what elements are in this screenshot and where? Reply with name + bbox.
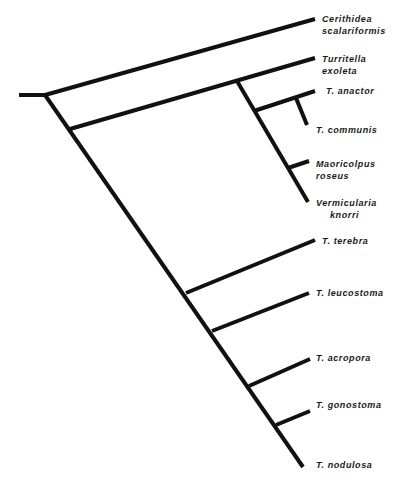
branch-anactor-communis bbox=[254, 91, 315, 111]
branch-communis bbox=[296, 98, 307, 125]
taxon-label-communis: T. communis bbox=[316, 124, 377, 136]
taxon-label-leucostoma: T. leucostoma bbox=[316, 287, 384, 299]
taxon-species: exoleta bbox=[322, 65, 366, 77]
main-trunk bbox=[45, 95, 303, 467]
taxon-genus: Cerithidea bbox=[322, 13, 386, 25]
taxon-species: roseus bbox=[316, 170, 376, 182]
taxon-name: T. leucostoma bbox=[316, 287, 384, 299]
branch-maoricolpus bbox=[288, 161, 309, 168]
taxon-name: T. nodulosa bbox=[316, 459, 372, 471]
taxon-genus: Maoricolpus bbox=[316, 158, 376, 170]
taxon-label-nodulosa: T. nodulosa bbox=[316, 459, 372, 471]
branch-acropora bbox=[249, 359, 310, 386]
taxon-label-terebra: T. terebra bbox=[322, 235, 368, 247]
taxon-label-cerithidea: Cerithidea scalariformis bbox=[322, 13, 386, 37]
branch-gonostoma bbox=[276, 411, 310, 425]
taxon-genus: Turritella bbox=[322, 53, 366, 65]
branch-leucostoma bbox=[212, 293, 309, 331]
taxon-label-maoricolpus: Maoricolpus roseus bbox=[316, 158, 376, 182]
branch-cerithidea bbox=[45, 19, 315, 95]
taxon-name: T. gonostoma bbox=[316, 399, 382, 411]
taxon-name: T. acropora bbox=[316, 352, 371, 364]
taxon-genus: Vermicularia bbox=[316, 197, 377, 209]
taxon-species: knorri bbox=[316, 209, 377, 221]
taxon-label-acropora: T. acropora bbox=[316, 352, 371, 364]
taxon-species: scalariformis bbox=[322, 25, 386, 37]
taxon-name: T. terebra bbox=[322, 235, 368, 247]
taxon-label-vermicularia: Vermicularia knorri bbox=[316, 197, 377, 221]
taxon-name: T. communis bbox=[316, 124, 377, 136]
taxon-label-turritella: Turritella exoleta bbox=[322, 53, 366, 77]
taxon-label-gonostoma: T. gonostoma bbox=[316, 399, 382, 411]
branch-terebra bbox=[186, 240, 315, 293]
branch-turritella bbox=[70, 58, 315, 129]
taxon-label-anactor: T. anactor bbox=[326, 85, 374, 97]
taxon-name: T. anactor bbox=[326, 85, 374, 97]
